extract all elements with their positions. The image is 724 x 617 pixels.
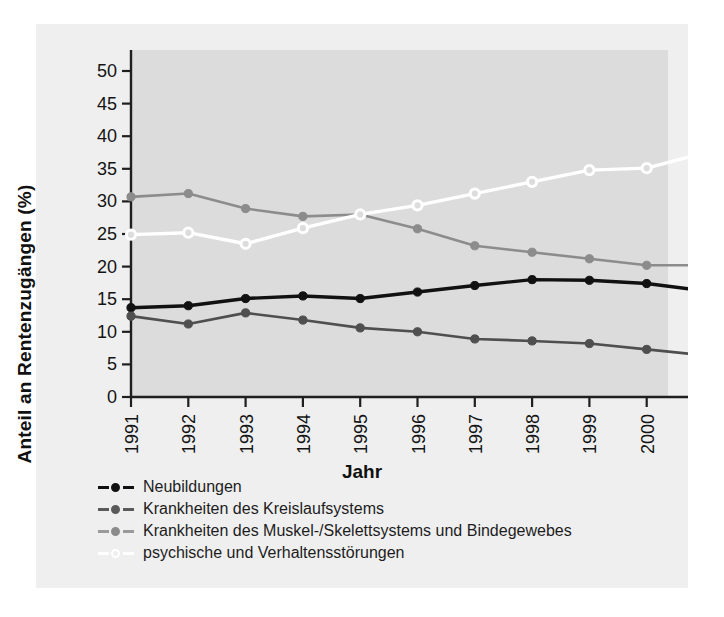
svg-text:25: 25	[97, 224, 117, 244]
svg-text:0: 0	[107, 387, 117, 407]
legend-marker-psychische-stoerungen	[98, 546, 134, 560]
svg-text:1998: 1998	[523, 414, 543, 454]
svg-text:1999: 1999	[580, 414, 600, 454]
legend-marker-muskel-skelettsystem	[98, 524, 134, 538]
legend-label: Krankheiten des Kreislaufsystems	[143, 500, 384, 518]
line-chart: 05101520253035404550 1991199219931994199…	[36, 24, 688, 464]
legend-marker-kreislaufsystem	[98, 502, 134, 516]
legend-label: Krankheiten des Muskel-/Skelettsystems u…	[143, 522, 572, 540]
y-axis-title: Anteil an Rentenzugängen (%)	[14, 174, 36, 474]
legend-marker-neubildungen	[98, 480, 134, 494]
svg-text:5: 5	[107, 354, 117, 374]
svg-text:1997: 1997	[466, 414, 486, 454]
svg-text:40: 40	[97, 126, 117, 146]
svg-text:50: 50	[97, 61, 117, 81]
legend-item[interactable]: psychische und Verhaltensstörungen	[98, 542, 678, 564]
legend-label: psychische und Verhaltensstörungen	[143, 544, 405, 562]
legend-item[interactable]: Krankheiten des Muskel-/Skelettsystems u…	[98, 520, 678, 542]
svg-text:35: 35	[97, 159, 117, 179]
svg-text:1994: 1994	[294, 414, 314, 454]
legend-label: Neubildungen	[143, 478, 242, 496]
legend: Neubildungen Krankheiten des Kreislaufsy…	[98, 476, 678, 564]
svg-text:1991: 1991	[122, 414, 142, 454]
legend-item[interactable]: Neubildungen	[98, 476, 678, 498]
svg-text:45: 45	[97, 94, 117, 114]
svg-text:10: 10	[97, 322, 117, 342]
svg-text:1995: 1995	[351, 414, 371, 454]
series-group	[126, 149, 688, 360]
figure: Anteil an Rentenzugängen (%) Jahr 051015…	[36, 24, 688, 588]
svg-text:2000: 2000	[638, 414, 658, 454]
x-axis-ticks: 1991199219931994199519961997199819992000…	[122, 397, 688, 454]
legend-item[interactable]: Krankheiten des Kreislaufsystems	[98, 498, 678, 520]
svg-text:1993: 1993	[237, 414, 257, 454]
svg-text:1992: 1992	[179, 414, 199, 454]
svg-text:1996: 1996	[409, 414, 429, 454]
svg-text:30: 30	[97, 191, 117, 211]
svg-text:15: 15	[97, 289, 117, 309]
svg-text:20: 20	[97, 257, 117, 277]
